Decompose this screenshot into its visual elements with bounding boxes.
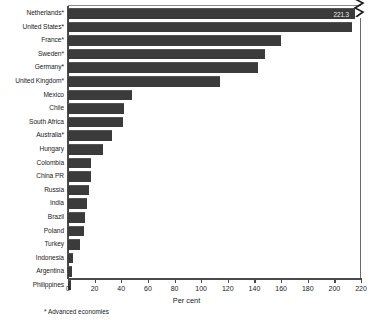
bar <box>68 171 91 182</box>
bar-row: Philippines <box>0 278 373 292</box>
bar: 221.3 <box>68 8 355 19</box>
axis-break-icon <box>352 0 368 17</box>
bar-row: Germany* <box>0 60 373 74</box>
bar <box>68 22 352 33</box>
category-label: Indonesia <box>0 251 64 265</box>
category-label: Colombia <box>0 156 64 170</box>
bar-row: Argentina <box>0 264 373 278</box>
bar-row: Brazil <box>0 210 373 224</box>
bar <box>68 198 87 209</box>
category-label: Hungary <box>0 142 64 156</box>
x-tick <box>148 278 149 283</box>
bar <box>68 103 124 114</box>
chart-footnote: * Advanced economies <box>44 308 109 315</box>
category-label: United States* <box>0 20 64 34</box>
x-tick <box>121 278 122 283</box>
x-tick <box>201 278 202 283</box>
category-label: Poland <box>0 224 64 238</box>
bar <box>68 117 123 128</box>
x-tick-label: 40 <box>117 285 125 292</box>
bar <box>68 158 91 169</box>
category-label: Australia* <box>0 128 64 142</box>
x-tick-label: 120 <box>222 285 234 292</box>
bar-row: France* <box>0 33 373 47</box>
x-tick-label: 60 <box>144 285 152 292</box>
x-tick <box>95 278 96 283</box>
x-tick <box>175 278 176 283</box>
bar <box>68 212 85 223</box>
category-label: France* <box>0 33 64 47</box>
category-label: Mexico <box>0 88 64 102</box>
bar-row: Russia <box>0 183 373 197</box>
x-tick <box>68 278 69 283</box>
x-tick-label: 100 <box>195 285 207 292</box>
bar-chart: Netherlands*221.3United States*France*Sw… <box>0 0 373 322</box>
x-tick-label: 220 <box>355 285 367 292</box>
bar <box>68 62 258 73</box>
bar <box>68 266 72 277</box>
category-label: Turkey <box>0 237 64 251</box>
x-tick <box>281 278 282 283</box>
x-tick-label: 140 <box>249 285 261 292</box>
x-tick <box>361 278 362 283</box>
x-axis-label: Per cent <box>0 296 373 305</box>
x-tick <box>308 278 309 283</box>
bar-value-label: 221.3 <box>334 10 350 20</box>
bar <box>68 49 265 60</box>
x-tick-label: 20 <box>91 285 99 292</box>
bar <box>68 130 112 141</box>
bar-rows: Netherlands*221.3United States*France*Sw… <box>0 6 373 278</box>
bar <box>68 226 84 237</box>
bar <box>68 144 103 155</box>
category-label: Germany* <box>0 60 64 74</box>
bar-row: Netherlands*221.3 <box>0 6 373 20</box>
bar-row: Turkey <box>0 237 373 251</box>
bar <box>68 76 220 87</box>
x-tick-label: 160 <box>275 285 287 292</box>
category-label: Russia <box>0 183 64 197</box>
bar-row: Poland <box>0 224 373 238</box>
category-label: India <box>0 196 64 210</box>
bar <box>68 185 89 196</box>
x-tick-label: 200 <box>329 285 341 292</box>
category-label: China PR <box>0 169 64 183</box>
x-tick <box>254 278 255 283</box>
category-label: Netherlands* <box>0 6 64 20</box>
category-label: South Africa <box>0 115 64 129</box>
bar-row: United Kingdom* <box>0 74 373 88</box>
x-tick <box>334 278 335 283</box>
bar-row: South Africa <box>0 115 373 129</box>
bar-row: Chile <box>0 101 373 115</box>
category-label: Philippines <box>0 278 64 292</box>
x-tick-label: 180 <box>302 285 314 292</box>
bar-row: Hungary <box>0 142 373 156</box>
bar-row: India <box>0 196 373 210</box>
bar <box>68 239 80 250</box>
category-label: United Kingdom* <box>0 74 64 88</box>
x-tick <box>228 278 229 283</box>
bar <box>68 253 73 264</box>
bar-row: Colombia <box>0 156 373 170</box>
x-tick-label: 0 <box>66 285 70 292</box>
category-label: Sweden* <box>0 47 64 61</box>
bar-row: Australia* <box>0 128 373 142</box>
bar <box>68 35 281 46</box>
x-tick-label: 80 <box>171 285 179 292</box>
bar-row: Mexico <box>0 88 373 102</box>
bar-row: China PR <box>0 169 373 183</box>
category-label: Brazil <box>0 210 64 224</box>
bar-row: Indonesia <box>0 251 373 265</box>
category-label: Argentina <box>0 264 64 278</box>
bar-row: Sweden* <box>0 47 373 61</box>
bar-row: United States* <box>0 20 373 34</box>
bar <box>68 90 132 101</box>
category-label: Chile <box>0 101 64 115</box>
